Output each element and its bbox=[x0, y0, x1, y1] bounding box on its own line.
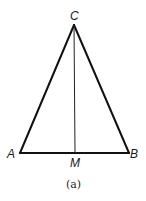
figure-caption: (a) bbox=[66, 178, 81, 191]
label-c: C bbox=[70, 9, 79, 23]
triangle-figure: C A B M (a) bbox=[0, 0, 146, 201]
label-a: A bbox=[6, 147, 15, 161]
label-m: M bbox=[70, 156, 80, 170]
median-cm bbox=[74, 25, 75, 153]
label-b: B bbox=[130, 147, 138, 161]
triangle-diagram: C A B M (a) bbox=[0, 0, 146, 201]
side-ac bbox=[20, 25, 74, 153]
side-cb bbox=[74, 25, 129, 153]
